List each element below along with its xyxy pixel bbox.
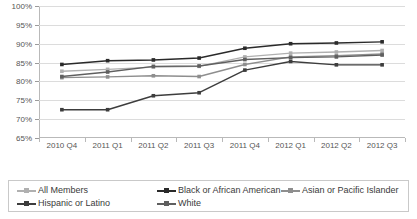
legend-item-label: All Members [38, 186, 88, 195]
y-axis-tick-label: 100% [12, 2, 32, 11]
legend-marker-icon [157, 186, 176, 195]
x-axis-tick-label: 2011 Q2 [138, 141, 168, 150]
data-point-marker [380, 49, 384, 53]
data-point-marker [152, 65, 156, 69]
data-point-marker [335, 55, 339, 59]
x-axis-tick-label: 2012 Q1 [275, 141, 306, 150]
data-point-marker [106, 108, 110, 112]
legend-item[interactable]: White [157, 199, 201, 208]
y-axis-tick-label: 70% [16, 115, 32, 124]
data-point-marker [197, 75, 201, 79]
series-line [62, 55, 382, 77]
data-point-marker [289, 51, 293, 55]
data-point-marker [60, 108, 64, 112]
y-axis-tick-label: 95% [16, 20, 32, 29]
y-axis-labels: 65%70%75%80%85%90%95%100% [0, 6, 36, 138]
data-point-marker [152, 74, 156, 78]
data-point-marker [243, 63, 247, 67]
legend-marker-icon [17, 199, 36, 208]
legend-item[interactable]: All Members [17, 186, 88, 195]
data-point-marker [289, 42, 293, 46]
legend-marker-icon [281, 186, 300, 195]
data-point-marker [60, 63, 64, 67]
data-point-marker [380, 63, 384, 67]
data-point-marker [243, 46, 247, 50]
data-point-marker [289, 56, 293, 60]
legend-item-label: White [178, 199, 201, 208]
series-group [60, 60, 384, 112]
data-point-marker [335, 41, 339, 45]
x-axis-tick-label: 2010 Q4 [47, 141, 78, 150]
series-plot [39, 6, 405, 138]
legend-item[interactable]: Asian or Pacific Islander [281, 186, 399, 195]
plot-area [39, 6, 405, 138]
legend-item-label: Asian or Pacific Islander [302, 186, 399, 195]
y-axis-tick-label: 80% [16, 77, 32, 86]
y-axis-tick-label: 90% [16, 39, 32, 48]
legend-item[interactable]: Black or African American [157, 186, 281, 195]
data-point-marker [152, 58, 156, 62]
x-axis-tick-label: 2012 Q3 [367, 141, 398, 150]
data-point-marker [197, 64, 201, 68]
x-axis-labels: 2010 Q42011 Q12011 Q22011 Q32011 Q42012 … [39, 141, 405, 155]
data-point-marker [197, 91, 201, 95]
data-point-marker [106, 75, 110, 79]
data-point-marker [335, 63, 339, 67]
data-point-marker [60, 69, 64, 73]
data-point-marker [106, 70, 110, 74]
data-point-marker [380, 40, 384, 44]
legend-item[interactable]: Hispanic or Latino [17, 199, 110, 208]
x-axis-tick-label: 2012 Q2 [321, 141, 352, 150]
line-chart: 65%70%75%80%85%90%95%100% 2010 Q42011 Q1… [0, 0, 417, 219]
data-point-marker [152, 94, 156, 98]
data-point-marker [60, 75, 64, 79]
y-axis-tick-label: 75% [16, 96, 32, 105]
x-axis-tick-label: 2011 Q1 [93, 141, 123, 150]
data-point-marker [243, 68, 247, 72]
x-axis-tick-label: 2011 Q3 [184, 141, 214, 150]
data-point-marker [380, 53, 384, 57]
data-point-marker [335, 50, 339, 54]
y-axis-tick-label: 85% [16, 58, 32, 67]
x-axis-tick-label: 2011 Q4 [230, 141, 260, 150]
data-point-marker [243, 58, 247, 62]
data-point-marker [197, 56, 201, 60]
legend-marker-icon [17, 186, 36, 195]
legend-item-label: Black or African American [178, 186, 281, 195]
data-point-marker [106, 59, 110, 63]
chart-legend: All MembersBlack or African AmericanAsia… [8, 180, 409, 212]
data-point-marker [289, 60, 293, 64]
legend-marker-icon [157, 199, 176, 208]
legend-item-label: Hispanic or Latino [38, 199, 110, 208]
y-axis-tick-label: 65% [16, 134, 32, 143]
x-axis-tick [405, 138, 406, 142]
